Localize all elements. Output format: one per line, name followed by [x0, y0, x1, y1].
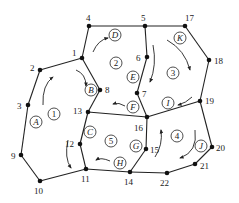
edge-14-22 [130, 172, 167, 173]
arrow-K-icon [167, 40, 190, 70]
node-5 [143, 24, 148, 29]
arrow-D-icon [93, 38, 108, 52]
node-label-10: 10 [34, 186, 44, 196]
region-label-2: 2 [114, 58, 119, 68]
link-label-B: B [88, 85, 94, 95]
edge-1-4 [82, 26, 89, 58]
node-label-17: 17 [185, 13, 195, 23]
link-label-F: F [129, 102, 136, 112]
node-19 [198, 99, 203, 104]
region-label-1: 1 [52, 109, 57, 119]
link-label-G: G [133, 141, 140, 151]
link-label-A: A [32, 117, 39, 127]
node-label-19: 19 [205, 96, 215, 106]
edge-10-11 [40, 169, 86, 181]
node-label-13: 13 [73, 106, 83, 116]
node-label-15: 15 [150, 145, 160, 155]
region-label-5: 5 [109, 136, 114, 146]
node-18 [207, 58, 212, 63]
arrow-E-icon [150, 45, 154, 82]
node-20 [210, 145, 215, 150]
node-17 [183, 24, 188, 29]
node-label-4: 4 [86, 13, 91, 23]
node-label-6: 6 [136, 53, 141, 63]
node-3 [26, 103, 31, 108]
link-label-H: H [116, 158, 124, 168]
node-label-2: 2 [30, 63, 35, 73]
node-13 [86, 110, 91, 115]
node-label-8: 8 [105, 85, 110, 95]
node-16 [145, 115, 150, 120]
edge-3-9 [21, 105, 28, 155]
link-label-E: E [129, 72, 136, 82]
node-4 [87, 24, 92, 29]
node-8 [98, 88, 103, 93]
arrow-A-icon [43, 77, 53, 105]
node-2 [38, 68, 43, 73]
link-labels-layer: ABCDEFGHIJK [30, 29, 207, 169]
edge-11-12 [80, 144, 86, 169]
node-1 [80, 56, 85, 61]
node-label-21: 21 [200, 161, 209, 171]
node-label-11: 11 [81, 174, 90, 184]
node-6 [145, 55, 150, 60]
edge-11-14 [86, 169, 130, 172]
edge-18-19 [200, 60, 209, 101]
node-label-14: 14 [124, 177, 134, 187]
edge-17-18 [185, 26, 209, 60]
link-label-C: C [87, 127, 94, 137]
edge-9-10 [21, 155, 40, 181]
node-label-3: 3 [17, 101, 22, 111]
edge-15-14 [130, 149, 146, 172]
network-diagram: 12345678910111213141516171819202122 1234… [0, 0, 239, 203]
node-12 [78, 142, 83, 147]
arrow-H-icon [96, 159, 110, 161]
node-label-5: 5 [141, 13, 146, 23]
region-label-3: 3 [171, 68, 176, 78]
node-11 [84, 167, 89, 172]
node-14 [128, 170, 133, 175]
node-label-1: 1 [72, 48, 77, 58]
node-label-16: 16 [134, 123, 144, 133]
node-label-18: 18 [214, 56, 224, 66]
link-label-K: K [176, 33, 184, 43]
node-label-22: 22 [160, 178, 169, 188]
node-9 [19, 153, 24, 158]
region-label-4: 4 [175, 131, 180, 141]
node-label-12: 12 [65, 139, 74, 149]
node-15 [144, 147, 149, 152]
edge-5-6 [145, 26, 147, 57]
edge-1-2 [40, 58, 82, 70]
edge-13-16 [88, 112, 147, 117]
node-label-7: 7 [142, 89, 147, 99]
node-label-20: 20 [216, 143, 226, 153]
edge-22-21 [167, 164, 195, 173]
arrow-B-icon [76, 70, 86, 86]
arrow-F-icon [113, 103, 125, 106]
node-10 [38, 179, 43, 184]
node-7 [135, 91, 140, 96]
edge-16-15 [146, 117, 147, 149]
node-22 [165, 171, 170, 176]
node-label-9: 9 [11, 151, 16, 161]
link-label-D: D [111, 30, 119, 40]
edge-2-3 [28, 70, 40, 105]
node-21 [193, 162, 198, 167]
